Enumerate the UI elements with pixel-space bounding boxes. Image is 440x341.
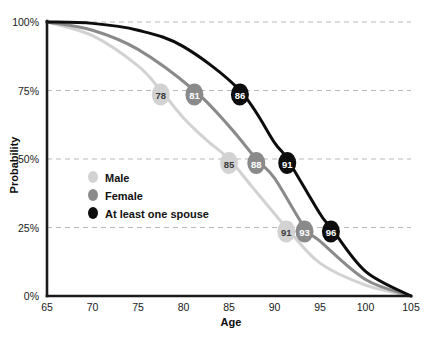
y-tick-75pct: 75% xyxy=(18,85,39,97)
marker-male-78: 78 xyxy=(152,84,170,106)
marker-value-label: 93 xyxy=(299,227,310,238)
legend-label: Male xyxy=(105,172,129,184)
y-axis-title: Probability xyxy=(8,136,20,194)
legend-swatch-icon xyxy=(88,171,98,183)
x-tick-65: 65 xyxy=(41,301,53,313)
marker-value-label: 86 xyxy=(235,90,246,101)
legend-label: Female xyxy=(105,190,143,202)
x-tick-90: 90 xyxy=(269,301,281,313)
x-tick-75: 75 xyxy=(132,301,144,313)
marker-at-least-one-spouse-96: 96 xyxy=(322,221,340,243)
marker-female-81: 81 xyxy=(185,84,203,106)
chart-legend: MaleFemaleAt least one spouse xyxy=(88,171,209,220)
marker-male-85: 85 xyxy=(220,152,238,174)
legend-swatch-icon xyxy=(88,207,98,219)
y-tick-100pct: 100% xyxy=(12,16,39,28)
x-axis-title: Age xyxy=(221,316,242,328)
marker-male-91: 91 xyxy=(277,221,295,243)
marker-female-93: 93 xyxy=(296,221,314,243)
x-axis-tick-labels: 65707580859095100105 xyxy=(41,301,420,313)
marker-value-label: 96 xyxy=(326,227,337,238)
x-tick-105: 105 xyxy=(402,301,420,313)
marker-at-least-one-spouse-91: 91 xyxy=(278,152,296,174)
x-tick-85: 85 xyxy=(223,301,235,313)
legend-item-at-least-one-spouse[interactable]: At least one spouse xyxy=(88,207,209,220)
marker-value-label: 91 xyxy=(281,227,292,238)
y-tick-0pct: 0% xyxy=(24,290,39,302)
x-tick-70: 70 xyxy=(87,301,99,313)
probability-of-survival-chart: 65707580859095100105 0%25%50%75%100% 788… xyxy=(0,0,440,341)
marker-female-88: 88 xyxy=(247,152,265,174)
marker-value-label: 78 xyxy=(155,90,166,101)
marker-at-least-one-spouse-86: 86 xyxy=(231,84,249,106)
marker-value-label: 85 xyxy=(224,159,235,170)
x-tick-100: 100 xyxy=(357,301,375,313)
y-tick-25pct: 25% xyxy=(18,222,39,234)
x-tick-95: 95 xyxy=(314,301,326,313)
chart-canvas: 65707580859095100105 0%25%50%75%100% 788… xyxy=(0,0,440,341)
marker-value-label: 91 xyxy=(282,159,293,170)
legend-label: At least one spouse xyxy=(105,208,209,220)
marker-value-label: 88 xyxy=(251,159,262,170)
legend-item-male[interactable]: Male xyxy=(88,171,129,184)
legend-item-female[interactable]: Female xyxy=(88,189,143,202)
marker-value-label: 81 xyxy=(189,90,200,101)
y-tick-50pct: 50% xyxy=(18,153,39,165)
legend-swatch-icon xyxy=(88,189,98,201)
x-tick-80: 80 xyxy=(178,301,190,313)
